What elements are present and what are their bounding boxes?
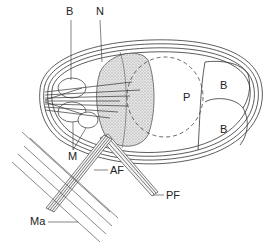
label-b-basal: B bbox=[66, 6, 73, 17]
label-n-nucleus: N bbox=[96, 6, 104, 17]
label-pf: PF bbox=[166, 190, 180, 201]
label-p: P bbox=[183, 92, 190, 103]
label-m: M bbox=[68, 151, 77, 162]
label-b-right-bottom: B bbox=[220, 124, 227, 135]
label-ma: Ma bbox=[30, 216, 45, 227]
anterior-flagella bbox=[46, 135, 112, 212]
left-bodies bbox=[58, 78, 98, 128]
diagram-canvas: B N P B B M AF PF Ma bbox=[0, 0, 271, 249]
cell-diagram bbox=[0, 0, 271, 249]
nucleus-stippled bbox=[97, 53, 154, 146]
label-b-right-top: B bbox=[220, 80, 227, 91]
label-af: AF bbox=[110, 165, 124, 176]
